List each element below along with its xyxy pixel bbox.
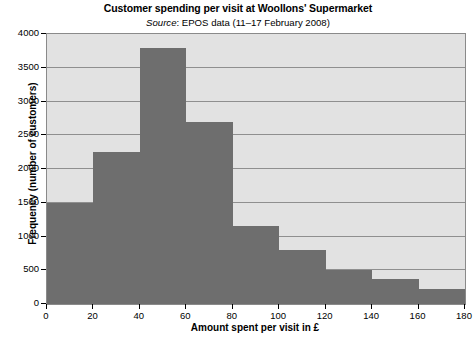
chart-subtitle-source-word: Source: [146, 17, 176, 28]
chart-subtitle-rest: : EPOS data (11–17 February 2008): [176, 17, 329, 28]
x-axis-tick-label: 180: [444, 310, 476, 321]
x-axis-tick-mark: [139, 304, 140, 309]
y-axis-tick-mark: [41, 269, 46, 270]
x-axis-tick-label: 80: [212, 310, 252, 321]
histogram-figure: Customer spending per visit at Woollons'…: [0, 0, 476, 339]
x-axis-tick-label: 20: [72, 310, 112, 321]
x-axis-tick-mark: [232, 304, 233, 309]
histogram-bar: [140, 48, 186, 305]
gridline: [47, 101, 465, 102]
x-axis-tick-label: 140: [351, 310, 391, 321]
x-axis-tick-mark: [92, 304, 93, 309]
x-axis-tick-label: 0: [26, 310, 66, 321]
x-axis-tick-mark: [278, 304, 279, 309]
histogram-bar: [233, 226, 279, 304]
x-axis-tick-label: 100: [258, 310, 298, 321]
x-axis-tick-mark: [46, 304, 47, 309]
x-axis-tick-mark: [371, 304, 372, 309]
y-axis-tick-label: 4000: [1, 28, 39, 38]
y-axis-tick-label: 0: [1, 298, 39, 308]
histogram-bar: [47, 203, 93, 304]
y-axis-tick-mark: [41, 202, 46, 203]
histogram-bar: [93, 152, 139, 304]
y-axis-tick-mark: [41, 101, 46, 102]
histogram-bar: [419, 289, 465, 304]
plot-area: [46, 33, 466, 305]
chart-subtitle: Source: EPOS data (11–17 February 2008): [0, 16, 476, 29]
x-axis-tick-mark: [185, 304, 186, 309]
y-axis-tick-mark: [41, 33, 46, 34]
x-axis-tick-mark: [418, 304, 419, 309]
y-axis-title: Frequency (number of customers): [27, 49, 38, 279]
title-block: Customer spending per visit at Woollons'…: [0, 2, 476, 29]
y-axis-tick-mark: [41, 67, 46, 68]
y-axis-tick-mark: [41, 134, 46, 135]
x-axis-tick-mark: [325, 304, 326, 309]
x-axis-tick-label: 60: [165, 310, 205, 321]
x-axis-title: Amount spent per visit in £: [46, 322, 464, 333]
gridline: [47, 67, 465, 68]
histogram-bar: [326, 270, 372, 304]
histogram-bar: [186, 122, 232, 304]
x-axis-tick-label: 160: [398, 310, 438, 321]
x-axis-tick-label: 40: [119, 310, 159, 321]
y-axis-tick-mark: [41, 236, 46, 237]
gridline: [47, 134, 465, 135]
histogram-bar: [279, 250, 325, 304]
y-axis-tick-mark: [41, 168, 46, 169]
histogram-bar: [372, 279, 418, 304]
x-axis-tick-mark: [464, 304, 465, 309]
x-axis-tick-label: 120: [305, 310, 345, 321]
chart-title: Customer spending per visit at Woollons'…: [0, 2, 476, 15]
